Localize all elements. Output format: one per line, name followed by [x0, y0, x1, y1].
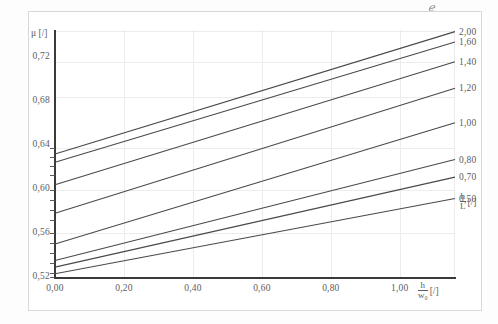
legend-label: 0,80	[459, 155, 476, 165]
curve-layer	[0, 0, 498, 324]
legend-label: 2,00	[459, 27, 476, 37]
legend-label: 0,70	[459, 172, 476, 182]
curve-100	[55, 123, 455, 244]
curve-200	[55, 32, 455, 154]
curve-070	[55, 177, 455, 267]
curve-160	[55, 42, 455, 162]
legend-label: 0,50	[459, 194, 476, 204]
legend-label: 1,20	[459, 83, 476, 93]
legend-label: 1,60	[459, 37, 476, 47]
curve-140	[55, 62, 455, 185]
figure-root: ℯ μ [/] h	[0, 0, 498, 324]
curve-120	[55, 88, 455, 213]
legend-label: 1,40	[459, 57, 476, 67]
legend-label: 1,00	[459, 118, 476, 128]
